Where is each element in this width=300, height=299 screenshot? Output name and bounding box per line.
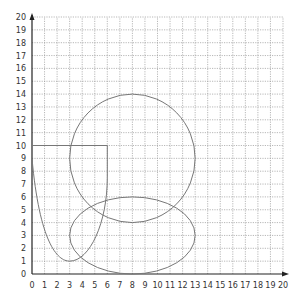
y-tick-label: 18 xyxy=(16,39,26,48)
y-tick-label: 9 xyxy=(21,154,26,163)
x-tick-label: 6 xyxy=(105,281,110,290)
x-tick-label: 18 xyxy=(253,281,263,290)
x-tick-label: 1 xyxy=(42,281,47,290)
y-tick-label: 0 xyxy=(21,270,26,279)
x-tick-label: 0 xyxy=(29,281,34,290)
y-tick-label: 12 xyxy=(16,116,26,125)
x-tick-label: 12 xyxy=(178,281,188,290)
y-tick-label: 1 xyxy=(21,257,26,266)
y-tick-label: 11 xyxy=(16,129,26,138)
y-tick-label: 20 xyxy=(16,13,26,22)
y-tick-label: 13 xyxy=(16,103,26,112)
x-tick-label: 13 xyxy=(190,281,200,290)
x-tick-label: 20 xyxy=(278,281,288,290)
y-axis-arrow-icon xyxy=(30,13,35,20)
x-tick-label: 10 xyxy=(152,281,162,290)
x-tick-label: 5 xyxy=(92,281,97,290)
y-tick-label: 2 xyxy=(21,244,26,253)
y-tick-label: 17 xyxy=(16,52,26,61)
x-tick-label: 15 xyxy=(215,281,225,290)
y-tick-label: 14 xyxy=(16,90,26,99)
y-tick-label: 3 xyxy=(21,231,26,240)
x-tick-label: 16 xyxy=(228,281,238,290)
y-tick-label: 19 xyxy=(16,26,26,35)
x-tick-label: 3 xyxy=(67,281,72,290)
y-tick-label: 15 xyxy=(16,77,26,86)
x-tick-label: 2 xyxy=(55,281,60,290)
x-tick-label: 19 xyxy=(265,281,275,290)
plot-canvas: 0123456789101112131415161718192001234567… xyxy=(0,0,300,299)
y-tick-label: 8 xyxy=(21,167,26,176)
x-tick-label: 9 xyxy=(142,281,147,290)
x-tick-label: 7 xyxy=(117,281,122,290)
y-tick-label: 5 xyxy=(21,206,26,215)
x-tick-label: 14 xyxy=(203,281,213,290)
x-tick-label: 4 xyxy=(80,281,85,290)
y-tick-label: 7 xyxy=(21,180,26,189)
coordinate-grid-figure: 0123456789101112131415161718192001234567… xyxy=(0,0,300,299)
y-tick-label: 6 xyxy=(21,193,26,202)
y-tick-label: 10 xyxy=(16,142,26,151)
x-tick-label: 11 xyxy=(165,281,175,290)
x-tick-label: 17 xyxy=(240,281,250,290)
y-tick-label: 16 xyxy=(16,64,26,73)
x-tick-label: 8 xyxy=(130,281,135,290)
x-axis-arrow-icon xyxy=(282,272,289,277)
y-tick-label: 4 xyxy=(21,219,26,228)
